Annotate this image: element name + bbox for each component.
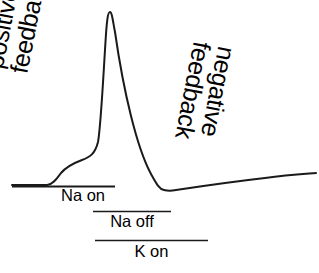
membrane-potential-trace-svg	[0, 0, 319, 273]
phase-label-k-on: K on	[95, 242, 208, 261]
action-potential-figure: positive feedback negative feedback Na o…	[0, 0, 319, 273]
phase-label-na-on: Na on	[48, 186, 118, 205]
phase-label-na-off: Na off	[93, 212, 171, 231]
action-potential-curve	[12, 12, 316, 191]
